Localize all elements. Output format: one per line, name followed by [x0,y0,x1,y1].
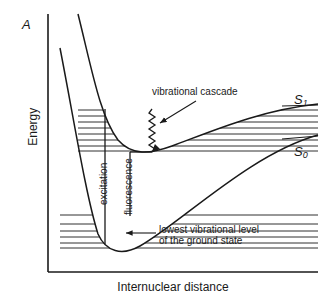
s1-potential-curve [78,14,318,152]
potential-energy-diagram [0,0,327,303]
vibrational-cascade-wavy-arrow [149,109,155,152]
panel-letter: A [22,18,31,33]
cascade-label-pointer [160,101,196,123]
x-axis-label: Internuclear distance [48,281,298,294]
fluorescence-label: fluorescence [123,158,134,215]
state-label-s0-letter: S [294,144,303,159]
state-label-s0-subscript: 0 [303,150,308,160]
y-axis-label: Energy [27,87,40,167]
excitation-label: excitation [98,163,109,205]
state-label-s0: S0 [294,145,308,160]
s1-vibrational-levels [60,110,318,151]
state-label-s1: S1 [294,93,308,108]
vibrational-cascade-label: vibrational cascade [152,86,238,97]
state-label-s1-letter: S [294,92,303,107]
ground-level-annotation-line1: lowest vibrational level [159,224,259,235]
state-label-s1-subscript: 1 [303,98,308,108]
ground-level-annotation: lowest vibrational levelof the ground st… [159,224,259,246]
ground-level-annotation-line2: of the ground state [159,235,242,246]
s0-asymptote [282,136,318,139]
s0-potential-curve [60,48,318,251]
